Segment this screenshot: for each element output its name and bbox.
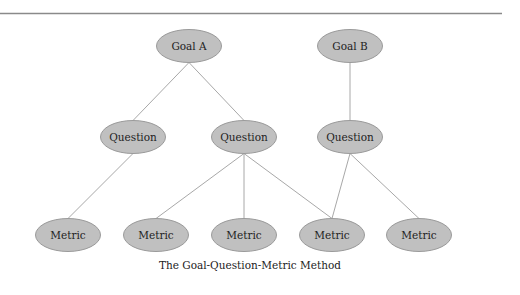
nodes: Goal AGoal BQuestionQuestionQuestionMetr… (36, 30, 452, 252)
edge-question-2-to-metric-4 (244, 154, 332, 219)
node-metric-5: Metric (387, 219, 452, 252)
node-metric-4: Metric (300, 219, 365, 252)
metric-label: Metric (314, 229, 350, 241)
metric-label: Metric (401, 229, 437, 241)
question-label: Question (326, 131, 374, 143)
question-label: Question (220, 131, 268, 143)
edge-question-2-to-metric-2 (156, 154, 244, 219)
node-metric-1: Metric (36, 219, 101, 252)
edge-question-3-to-metric-5 (350, 154, 419, 219)
metric-label: Metric (50, 229, 86, 241)
edge-question-3-to-metric-4 (332, 154, 350, 219)
metric-label: Metric (138, 229, 174, 241)
node-metric-2: Metric (124, 219, 189, 252)
goal-label: Goal A (171, 40, 207, 52)
node-metric-3: Metric (212, 219, 277, 252)
node-question-2: Question (212, 121, 277, 154)
gqm-diagram: Goal AGoal BQuestionQuestionQuestionMetr… (0, 0, 520, 295)
node-goal-b: Goal B (318, 30, 383, 63)
metric-label: Metric (226, 229, 262, 241)
goal-label: Goal B (332, 40, 368, 52)
diagram-caption: The Goal-Question-Metric Method (159, 259, 341, 271)
node-question-1: Question (101, 121, 166, 154)
node-question-3: Question (318, 121, 383, 154)
edge-goal-a-to-question-2 (189, 63, 244, 121)
question-label: Question (109, 131, 157, 143)
edge-goal-a-to-question-1 (133, 63, 189, 121)
node-goal-a: Goal A (157, 30, 222, 63)
edge-question-1-to-metric-1 (68, 154, 133, 219)
